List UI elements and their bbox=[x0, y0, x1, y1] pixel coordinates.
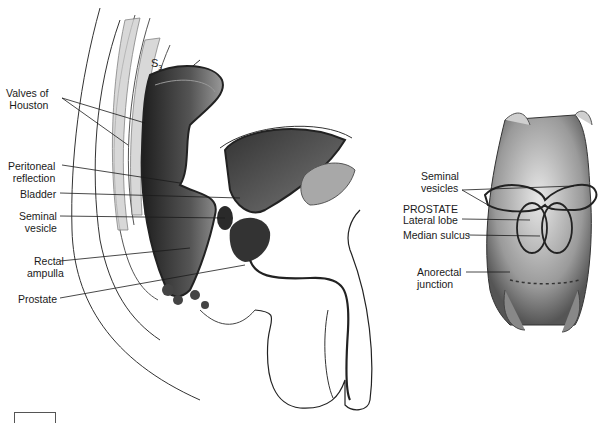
label-line: Valves of bbox=[6, 87, 48, 99]
label-line: Houston bbox=[6, 99, 48, 111]
label-rectal-ampulla: Rectal ampulla bbox=[27, 255, 64, 279]
vertebra-label-s3: S3 bbox=[151, 57, 162, 71]
label-lateral-lobe: Lateral lobe bbox=[403, 214, 458, 226]
label-seminal-vesicle: Seminal vesicle bbox=[19, 210, 57, 234]
label-bladder: Bladder bbox=[20, 188, 56, 200]
rectum bbox=[142, 66, 223, 296]
label-line: vesicles bbox=[421, 182, 459, 194]
label-prostate: Prostate bbox=[18, 293, 57, 305]
label-line: Median sulcus bbox=[403, 229, 470, 241]
label-line: Lateral lobe bbox=[403, 214, 458, 226]
label-line: vesicle bbox=[19, 222, 57, 234]
prostate bbox=[230, 218, 271, 262]
label-line: reflection bbox=[8, 172, 55, 184]
penis-outline bbox=[255, 210, 372, 410]
figure-corner-box bbox=[14, 412, 56, 423]
label-anorectal-junction: Anorectal junction bbox=[417, 266, 461, 290]
label-line: junction bbox=[417, 278, 461, 290]
label-line: Rectal bbox=[27, 255, 64, 267]
label-peritoneal-reflection: Peritoneal reflection bbox=[8, 160, 55, 184]
vertebra-number: 3 bbox=[158, 64, 162, 71]
label-line: Prostate bbox=[18, 293, 57, 305]
label-line: Seminal bbox=[421, 170, 459, 182]
label-line: Anorectal bbox=[417, 266, 461, 278]
label-valves-of-houston: Valves of Houston bbox=[6, 87, 48, 111]
label-median-sulcus: Median sulcus bbox=[403, 229, 470, 241]
label-seminal-vesicles: Seminal vesicles bbox=[421, 170, 459, 194]
label-line: ampulla bbox=[27, 267, 64, 279]
posterior-view bbox=[485, 111, 596, 332]
label-line: Peritoneal bbox=[8, 160, 55, 172]
label-line: Seminal bbox=[19, 210, 57, 222]
label-line: Bladder bbox=[20, 188, 56, 200]
urethra bbox=[250, 260, 350, 400]
